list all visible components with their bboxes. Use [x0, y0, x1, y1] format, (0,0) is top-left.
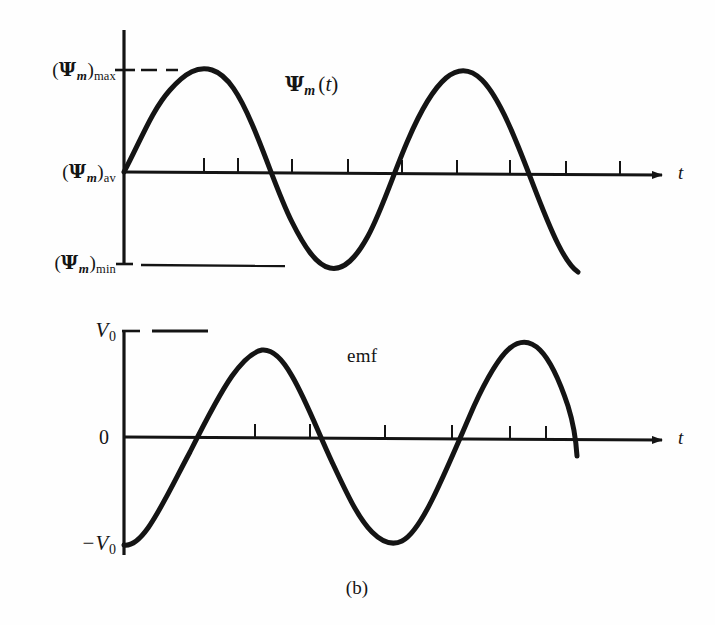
y-label-v0-positive: V0 [58, 320, 116, 344]
variable-t: t [325, 72, 331, 96]
curve-label-argument: (t) [318, 72, 338, 96]
emf-curve [124, 342, 577, 545]
y-label-min-qualifier: min [96, 262, 116, 276]
psi-subscript-m: m [304, 83, 315, 98]
curve-label-flux: Ψm(t) [285, 73, 338, 98]
reference-line-min [141, 265, 285, 266]
panel-bottom-axes [122, 330, 662, 555]
x-axis-bottom [124, 437, 662, 440]
psi-subscript-m: m [77, 68, 87, 83]
x-axis-label-bottom: t [678, 428, 683, 447]
curve-label-emf: emf [347, 346, 377, 365]
y-label-zero: 0 [99, 427, 109, 447]
y-label-flux-min: (Ψm)min [28, 253, 116, 275]
y-label-av-qualifier: av [104, 171, 116, 185]
figure-container: (Ψm)max (Ψm)av (Ψm)min Ψm(t) t V0 0 −V0 … [0, 0, 715, 625]
v-subscript-zero: 0 [109, 329, 116, 344]
y-label-flux-max: (Ψm)max [28, 60, 116, 82]
v-subscript-zero: 0 [109, 542, 116, 557]
v-symbol: V [95, 531, 108, 555]
psi-symbol: Ψ [69, 160, 86, 182]
psi-symbol: Ψ [285, 71, 304, 96]
psi-subscript-m: m [79, 261, 89, 276]
y-label-max-qualifier: max [94, 69, 116, 83]
psi-symbol: Ψ [61, 251, 78, 273]
v-symbol: V [95, 318, 108, 342]
y-label-v0-negative: −V0 [44, 533, 116, 557]
panel-top-axes [115, 30, 662, 272]
y-label-flux-av: (Ψm)av [32, 162, 116, 184]
x-axis-label-top: t [678, 163, 683, 182]
figure-caption: (b) [332, 578, 382, 597]
psi-symbol: Ψ [59, 58, 76, 80]
minus-sign: − [83, 531, 95, 555]
psi-subscript-m: m [87, 170, 97, 185]
